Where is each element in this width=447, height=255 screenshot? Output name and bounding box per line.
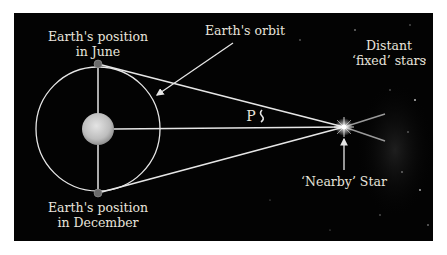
label-earth-december: Earth's position in December bbox=[48, 200, 148, 230]
label-parallax-angle: P bbox=[244, 109, 258, 124]
label-nearby-star: ‘Nearby’ Star bbox=[294, 174, 394, 189]
label-distant-stars: Distant ‘fixed’ stars bbox=[344, 38, 434, 68]
label-distant-stars-line2: ‘fixed’ stars bbox=[344, 53, 434, 68]
earth-december-icon bbox=[94, 189, 102, 197]
parallax-angle-bracket bbox=[261, 110, 264, 122]
nearby-star-icon bbox=[334, 117, 354, 137]
label-earth-june-line2: in June bbox=[48, 44, 148, 59]
label-orbit: Earth's orbit bbox=[200, 23, 290, 38]
parallax-diagram: Earth's position in June Earth's positio… bbox=[0, 0, 447, 255]
label-earth-december-line2: in December bbox=[48, 215, 148, 230]
sightline-june bbox=[98, 64, 344, 127]
sun-icon bbox=[82, 113, 114, 145]
label-earth-june-line1: Earth's position bbox=[48, 29, 148, 44]
orbit-pointer-arrow bbox=[157, 43, 233, 95]
label-distant-stars-line1: Distant bbox=[344, 38, 434, 53]
sightline-sun bbox=[114, 127, 344, 129]
label-earth-june: Earth's position in June bbox=[48, 29, 148, 59]
earth-june-icon bbox=[94, 60, 102, 68]
label-earth-december-line1: Earth's position bbox=[48, 200, 148, 215]
